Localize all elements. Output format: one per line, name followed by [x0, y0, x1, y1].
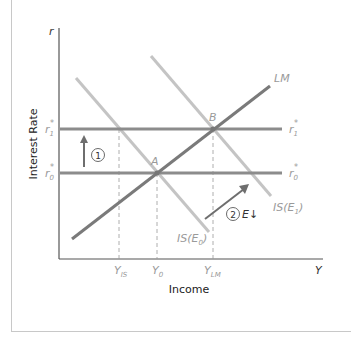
- r0-right-label: r0*: [289, 163, 299, 182]
- r0-left-label: r0*: [45, 163, 55, 182]
- arrow-1-head: [80, 135, 88, 143]
- lm-label: LM: [274, 72, 290, 85]
- x-axis-title: Income: [169, 283, 210, 296]
- step1-number: 1: [95, 151, 101, 161]
- arrow-2: [205, 189, 244, 219]
- is-e1-curve: [151, 56, 271, 196]
- is-e1-label: IS(E1): [273, 201, 303, 216]
- y-lm-tick: YLM: [204, 264, 221, 279]
- r1-left-label: r1*: [45, 119, 54, 138]
- point-b-label: B: [209, 111, 217, 124]
- point-b-marker: [211, 127, 216, 132]
- r1-right-label: r1*: [289, 119, 298, 138]
- y-axis-title: Interest Rate: [27, 108, 40, 179]
- is-e0-label: IS(E0): [177, 232, 207, 247]
- step2-number: 2: [230, 210, 236, 220]
- y-is-tick: YIS: [114, 264, 128, 279]
- y-axis-symbol: r: [49, 25, 55, 38]
- step2-label: E↓: [242, 208, 258, 221]
- point-a-label: A: [150, 155, 159, 168]
- x-axis-symbol: Y: [315, 264, 323, 277]
- point-a-marker: [155, 171, 160, 176]
- y0-tick: Y0: [152, 264, 164, 279]
